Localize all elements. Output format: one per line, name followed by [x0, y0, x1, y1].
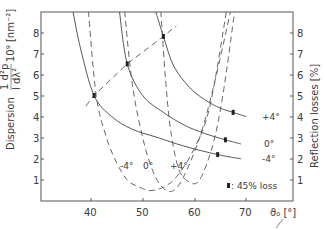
- y-tick-label: 5: [297, 91, 303, 102]
- y-tick-label: 7: [33, 49, 39, 60]
- loss-marker-icon: [126, 61, 129, 66]
- svg-text:10⁹ [nm⁻²]: 10⁹ [nm⁻²]: [5, 9, 16, 62]
- curve-label-plus4: +4°: [262, 112, 280, 122]
- y-axis-right: 1 2 3 4 5 6 7 8: [290, 28, 303, 186]
- y-tick-label: 2: [33, 154, 39, 165]
- svg-text:1 d²p: 1 d²p: [0, 64, 10, 90]
- x-tick-label: 70: [239, 207, 252, 218]
- loss-marker-icon: [216, 152, 219, 157]
- y-axis-left-title: Dispersion 1 d²p l dλ² 10⁹ [nm⁻²]: [0, 9, 22, 150]
- reflection-curve-4-: [161, 11, 235, 184]
- legend-marker-icon: [227, 183, 230, 188]
- curve-label-0-bottom: 0°: [143, 161, 153, 171]
- loss-marker-icon: [224, 137, 227, 142]
- legend: : 45% loss: [227, 181, 277, 191]
- x-axis-pointer: [276, 219, 283, 228]
- y-tick-label: 5: [33, 91, 39, 102]
- y-tick-label: 4: [297, 112, 303, 123]
- dispersion-reflection-chart: 1 2 3 4 5 6 7 8 1 2 3 4 5 6 7 8 40 50 60…: [0, 0, 325, 230]
- y-tick-label: 6: [297, 70, 303, 81]
- y-tick-label: 8: [297, 28, 303, 39]
- y-axis-left: 1 2 3 4 5 6 7 8: [33, 28, 44, 186]
- y-tick-label: 6: [33, 70, 39, 81]
- legend-text: : 45% loss: [231, 181, 277, 191]
- x-axis-title: ϑ₀ [°]: [270, 207, 296, 218]
- y-tick-label: 7: [297, 49, 303, 60]
- svg-text:l dλ²: l dλ²: [11, 68, 22, 90]
- loss-marker-icon: [93, 93, 96, 98]
- y-tick-label: 3: [297, 133, 303, 144]
- x-tick-label: 60: [188, 207, 201, 218]
- svg-text:Reflection losses [%]: Reflection losses [%]: [309, 64, 320, 168]
- x-tick-label: 40: [84, 207, 97, 218]
- y-tick-label: 1: [297, 175, 303, 186]
- curve-label-0: 0°: [264, 139, 274, 149]
- curve-label-minus4: -4°: [262, 154, 275, 164]
- curve-label-minus4-bottom: -4°: [120, 161, 133, 171]
- dispersion-curve-0-: [119, 11, 240, 144]
- loss-marker-icon: [232, 110, 235, 115]
- svg-text:Dispersion: Dispersion: [5, 97, 16, 150]
- y-tick-label: 2: [297, 154, 303, 165]
- curves-layer: [73, 11, 246, 191]
- y-axis-right-title: Reflection losses [%]: [309, 64, 320, 168]
- loss-marker-icon: [162, 34, 165, 39]
- x-tick-label: 50: [136, 207, 149, 218]
- y-tick-label: 8: [33, 28, 39, 39]
- y-tick-label: 4: [33, 112, 39, 123]
- x-axis: 40 50 60 70 ϑ₀ [°]: [84, 198, 296, 228]
- curve-label-plus4-bottom: +4°: [170, 161, 188, 171]
- y-tick-label: 1: [33, 175, 39, 186]
- y-tick-label: 3: [33, 133, 39, 144]
